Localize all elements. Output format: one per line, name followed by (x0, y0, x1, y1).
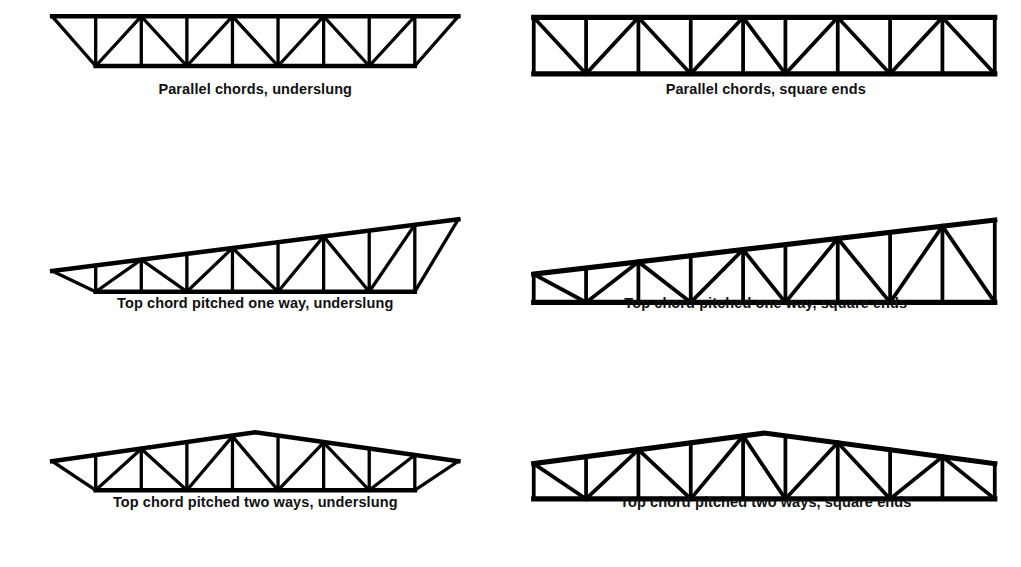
figure-parallel-chords-square-ends: Parallel chords, square ends (511, 0, 1021, 189)
figure-caption: Parallel chords, underslung (0, 81, 511, 97)
figure-pitched-two-ways-underslung: Top chord pitched two ways, underslung (0, 378, 511, 567)
figure-pitched-two-ways-square-ends: Top chord pitched two ways, square ends (511, 378, 1021, 567)
truss-drawing (0, 213, 511, 300)
figure-parallel-chords-underslung: Parallel chords, underslung (0, 0, 511, 189)
figure-caption: Top chord pitched one way, underslung (0, 295, 511, 311)
figure-caption: Top chord pitched two ways, underslung (0, 494, 511, 510)
truss-drawing (511, 8, 1021, 83)
pitched-one-way-underslung-svg (48, 213, 463, 300)
figure-caption: Top chord pitched one way, square ends (511, 295, 1021, 311)
truss-drawing (0, 8, 511, 74)
parallel-chords-underslung-svg (48, 8, 463, 74)
figure-caption: Parallel chords, square ends (511, 81, 1021, 97)
truss-drawing (0, 426, 511, 499)
figure-caption: Top chord pitched two ways, square ends (511, 494, 1021, 510)
parallel-chords-square-ends-svg (529, 8, 1000, 83)
figure-pitched-one-way-square-ends: Top chord pitched one way, square ends (511, 189, 1021, 378)
figure-pitched-one-way-underslung: Top chord pitched one way, underslung (0, 189, 511, 378)
pitched-two-ways-underslung-svg (48, 426, 463, 499)
truss-diagram-grid: Parallel chords, underslung (0, 0, 1021, 567)
